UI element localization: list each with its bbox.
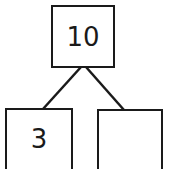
connector-right xyxy=(86,67,124,110)
part-box-right-empty[interactable] xyxy=(97,109,163,169)
part-box-left: 3 xyxy=(5,108,73,169)
whole-box: 10 xyxy=(51,5,115,68)
number-bond-diagram: 10 3 xyxy=(0,0,172,169)
connector-left xyxy=(43,67,81,109)
